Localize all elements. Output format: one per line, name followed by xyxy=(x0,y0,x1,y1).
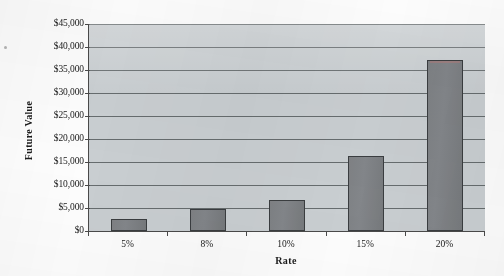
x-axis-tick-label: 5% xyxy=(121,238,134,250)
x-axis-tick-mark xyxy=(167,231,168,236)
x-axis-tick-mark xyxy=(88,231,89,236)
bar-chart-figure: Future Value $0$5,000$10,000$15,000$20,0… xyxy=(0,0,504,276)
y-axis-tick-label: $10,000 xyxy=(38,180,84,190)
x-axis-tick-marks xyxy=(88,231,484,237)
y-axis-tick-label: $20,000 xyxy=(38,134,84,144)
y-axis-tick-label: $15,000 xyxy=(38,157,84,167)
x-axis-tick-mark xyxy=(484,231,485,236)
bar-slot xyxy=(89,24,168,231)
bar-slot xyxy=(327,24,406,231)
x-axis-tick-mark xyxy=(405,231,406,236)
bar-slot xyxy=(406,24,485,231)
x-axis-title: Rate xyxy=(88,255,484,266)
bar-slot xyxy=(168,24,247,231)
y-axis-tick-label: $30,000 xyxy=(38,88,84,98)
x-axis-tick-label: 8% xyxy=(200,238,213,250)
bar xyxy=(269,200,305,231)
scan-artifact-speck xyxy=(4,46,7,49)
bar xyxy=(111,219,147,231)
x-axis-tick-labels: 5%8%10%15%20% xyxy=(88,238,484,252)
bars xyxy=(89,24,485,231)
x-axis-tick-label: 10% xyxy=(277,238,294,250)
x-axis-tick-label: 20% xyxy=(436,238,453,250)
y-axis-tick-label: $25,000 xyxy=(38,111,84,121)
x-axis-tick-mark xyxy=(246,231,247,236)
y-axis-tick-label: $0 xyxy=(38,226,84,236)
bar xyxy=(427,60,463,231)
bar xyxy=(190,209,226,231)
plot-area xyxy=(88,24,485,232)
x-axis-tick-mark xyxy=(326,231,327,236)
y-axis-tick-label: $40,000 xyxy=(38,42,84,52)
y-axis-tick-label: $35,000 xyxy=(38,65,84,75)
y-axis-tick-labels: $0$5,000$10,000$15,000$20,000$25,000$30,… xyxy=(38,24,84,231)
y-axis-title: Future Value xyxy=(22,82,36,178)
x-axis-tick-label: 15% xyxy=(356,238,373,250)
y-axis-tick-label: $45,000 xyxy=(38,19,84,29)
bar-slot xyxy=(247,24,326,231)
bar xyxy=(348,156,384,231)
y-axis-title-label: Future Value xyxy=(24,100,35,159)
y-axis-tick-label: $5,000 xyxy=(38,203,84,213)
